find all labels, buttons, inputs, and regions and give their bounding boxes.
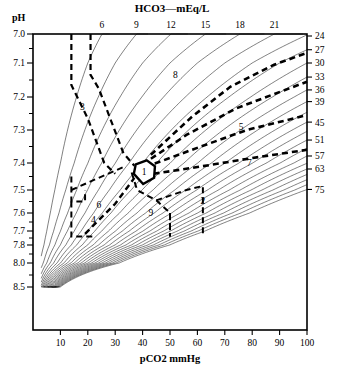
acid-base-nomogram-svg: 7.07.17.27.37.47.57.67.77.88.08.51020304… xyxy=(0,0,339,369)
zone-label-1: 1 xyxy=(142,167,147,177)
pco2-tick-label: 10 xyxy=(56,338,66,348)
ph-tick-label: 7.6 xyxy=(13,208,25,218)
zone-boundary xyxy=(145,115,307,167)
hco3-right-label: 57 xyxy=(315,151,325,161)
zone-label-7: 7 xyxy=(247,158,252,168)
ph-tick-label: 7.8 xyxy=(13,240,25,250)
pco2-tick-label: 20 xyxy=(83,338,93,348)
zone-boundary xyxy=(154,150,307,174)
pco2-tick-label: 50 xyxy=(165,338,175,348)
pco2-tick-label: 30 xyxy=(110,338,120,348)
hco3-top-label: 18 xyxy=(235,20,245,30)
hco3-right-label: 63 xyxy=(315,164,325,174)
hco3-right-label: 36 xyxy=(315,85,325,95)
pco2-tick-label: 90 xyxy=(275,338,285,348)
zone-label-3: 3 xyxy=(80,102,85,112)
zone-boundary xyxy=(71,34,115,174)
pco2-tick-label: 100 xyxy=(300,338,315,348)
hco3-right-label: 27 xyxy=(315,45,325,55)
ph-tick-label: 7.4 xyxy=(13,158,25,168)
hco3-right-label: 45 xyxy=(315,118,325,128)
hco3-top-label: 12 xyxy=(166,20,176,30)
zone-label-2: 2 xyxy=(201,196,206,206)
pco2-axis: 102030405060708090100 xyxy=(56,330,315,348)
zone-label-8: 8 xyxy=(173,70,178,80)
hco3-right-label: 75 xyxy=(315,185,325,195)
hco3-top-label: 6 xyxy=(100,20,105,30)
ph-tick-label: 7.2 xyxy=(13,92,25,102)
hco3-isoline xyxy=(41,34,188,274)
zone-label-9: 9 xyxy=(148,208,153,218)
ph-tick-label: 8.5 xyxy=(13,282,25,292)
hco3-top-label: 9 xyxy=(134,20,139,30)
hco3-isoline xyxy=(55,189,307,287)
hco3-right-label: 39 xyxy=(315,97,325,107)
hco3-right-label: 30 xyxy=(315,58,325,68)
top-axis-title: HCO3—mEq/L xyxy=(135,2,210,14)
hco3-top-axis: 6912151821 xyxy=(100,20,280,30)
hco3-isoline xyxy=(41,34,303,285)
zone-label-6: 6 xyxy=(96,200,101,210)
zone-boundary xyxy=(132,172,170,236)
zone-label-5: 5 xyxy=(239,122,244,132)
zone-boundary xyxy=(151,53,307,155)
ph-axis-title: pH xyxy=(12,12,26,23)
pco2-tick-label: 40 xyxy=(138,338,148,348)
zone-boundary xyxy=(85,178,134,234)
pco2-tick-label: 80 xyxy=(247,338,257,348)
hco3-right-label: 33 xyxy=(315,72,325,82)
hco3-isoline xyxy=(52,180,307,287)
hco3-top-label: 15 xyxy=(201,20,211,30)
pco2-tick-label: 60 xyxy=(193,338,203,348)
pco2-tick-label: 70 xyxy=(220,338,230,348)
hco3-isoline xyxy=(44,90,307,287)
hco3-top-label: 21 xyxy=(270,20,280,30)
ph-tick-label: 7.0 xyxy=(13,29,25,39)
zone-boundary xyxy=(143,82,307,165)
hco3-isoline xyxy=(41,34,148,268)
hco3-right-label: 51 xyxy=(315,135,325,145)
ph-tick-label: 7.5 xyxy=(13,185,25,195)
ph-axis: 7.07.17.27.37.47.57.67.77.88.08.5 xyxy=(13,29,33,292)
hco3-isoline xyxy=(48,140,307,287)
ph-tick-label: 7.1 xyxy=(13,58,25,68)
hco3-isoline xyxy=(41,34,110,256)
plot-border xyxy=(33,34,307,330)
hco3-isoline xyxy=(49,156,307,287)
hco3-right-label: 24 xyxy=(315,31,325,41)
nomogram-figure: 7.07.17.27.37.47.57.67.77.88.08.51020304… xyxy=(0,0,339,369)
x-axis-title: pCO2 mmHg xyxy=(140,353,201,364)
ph-tick-label: 7.3 xyxy=(13,125,25,135)
hco3-isoline xyxy=(47,122,307,287)
hco3-right-axis: 2427303336394551576375 xyxy=(307,31,325,194)
ph-tick-label: 8.0 xyxy=(13,258,25,268)
zone-label-4: 4 xyxy=(91,215,96,225)
ph-tick-label: 7.7 xyxy=(13,226,25,236)
